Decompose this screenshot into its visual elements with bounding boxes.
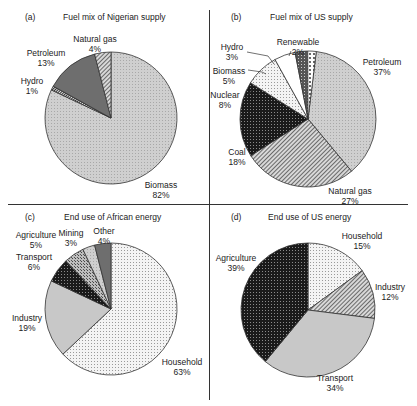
- label-transport: Transport34%: [317, 373, 353, 393]
- label-renewable: Renewable2%: [277, 37, 320, 57]
- panel-b-tag: (b): [231, 12, 241, 22]
- label-household: Household63%: [162, 357, 203, 377]
- label-agriculture: Agriculture5%: [16, 230, 57, 250]
- label-petroleum: Petroleum37%: [363, 57, 402, 77]
- panel-c-tag: (c): [25, 212, 35, 222]
- label-nuclear: Nuclear8%: [210, 90, 239, 110]
- label-biomass: Biomass5%: [213, 66, 246, 86]
- label-transport: Transport6%: [16, 252, 52, 272]
- label-household: Household15%: [342, 231, 383, 251]
- panel-c-title: End use of African energy: [64, 212, 161, 222]
- panel-a-tag: (a): [25, 12, 35, 22]
- label-agriculture: Agriculture39%: [216, 253, 257, 273]
- label-industry: Industry19%: [12, 313, 42, 333]
- label-industry: Industry12%: [375, 282, 405, 302]
- panel-b-title: Fuel mix of US supply: [270, 12, 353, 22]
- label-other: Other4%: [93, 226, 114, 246]
- label-hydro: Hydro1%: [21, 76, 44, 96]
- label-coal: Coal18%: [228, 147, 245, 167]
- label-mining: Mining3%: [58, 228, 83, 248]
- label-petroleum: Petroleum13%: [27, 48, 66, 68]
- label-biomass: Biomass82%: [145, 180, 178, 200]
- vertical-divider: [209, 10, 210, 400]
- label-natural-gas: Natural gas27%: [328, 186, 371, 206]
- panel-d-tag: (d): [231, 212, 241, 222]
- label-natural-gas: Natural gas4%: [73, 34, 116, 54]
- panel-d-title: End use of US energy: [268, 212, 351, 222]
- label-hydro: Hydro3%: [221, 42, 244, 62]
- panel-a-title: Fuel mix of Nigerian supply: [63, 12, 166, 22]
